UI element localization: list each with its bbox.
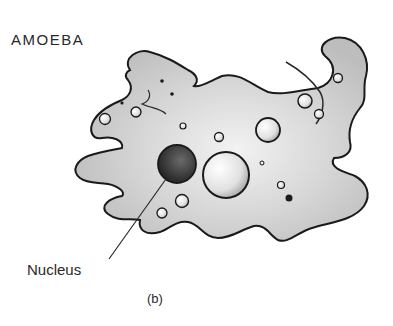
vacuole <box>278 182 285 189</box>
nucleus <box>158 145 196 183</box>
nucleus-label: Nucleus <box>27 261 81 278</box>
vacuole <box>256 118 280 142</box>
vacuole <box>334 74 343 83</box>
vacuole <box>100 114 111 125</box>
granule <box>286 195 293 202</box>
contractile-vacuole-large <box>203 152 249 198</box>
vacuole <box>131 107 141 117</box>
vacuole <box>180 123 186 129</box>
granule <box>160 79 164 83</box>
figure-caption: (b) <box>147 291 163 306</box>
granule <box>120 101 123 104</box>
vacuole <box>260 161 264 165</box>
granule <box>170 92 174 96</box>
vacuole <box>315 110 324 119</box>
vacuole <box>298 94 312 108</box>
vacuole <box>215 133 224 142</box>
vacuole <box>176 195 189 208</box>
vacuole <box>157 208 167 218</box>
